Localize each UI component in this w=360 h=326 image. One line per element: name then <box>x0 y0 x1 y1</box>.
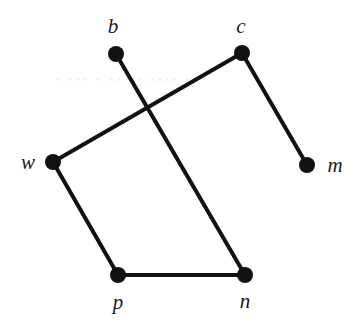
vertex-label-c: c <box>236 16 245 37</box>
graph-node-m <box>299 157 315 173</box>
graph-figure: ▪ ▪▪▪ ▪ ▪▪ ▪▪ ▪▪▪▪ ▪ bcwmpn <box>0 0 360 326</box>
vertex-label-b: b <box>108 16 119 37</box>
vertex-label-m: m <box>327 155 342 176</box>
graph-edge-c-w <box>53 53 242 162</box>
graph-node-n <box>237 267 253 283</box>
vertex-label-n: n <box>240 291 251 312</box>
graph-node-c <box>234 45 250 61</box>
graph-canvas <box>0 0 360 326</box>
edges-layer <box>53 53 307 275</box>
graph-node-w <box>45 154 61 170</box>
graph-edge-c-m <box>242 53 307 165</box>
vertex-label-w: w <box>21 152 35 173</box>
graph-node-b <box>108 46 124 62</box>
graph-edge-w-p <box>53 162 118 275</box>
graph-node-p <box>110 267 126 283</box>
vertex-label-p: p <box>113 292 124 313</box>
